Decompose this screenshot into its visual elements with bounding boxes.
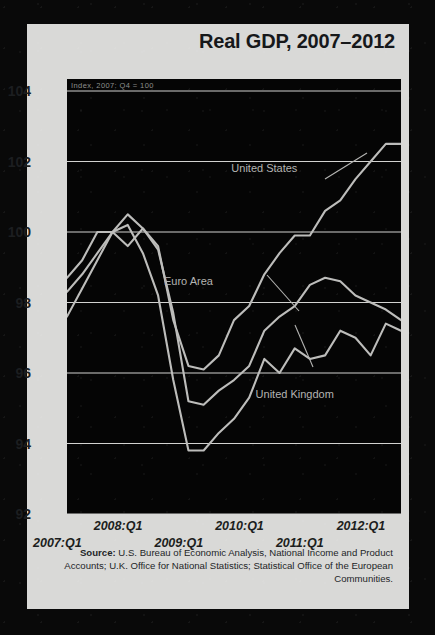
source-label: Source: xyxy=(80,547,116,558)
x-axis-tick-2012-Q1: 2012:Q1 xyxy=(337,519,386,533)
annotation-label: Euro Area xyxy=(164,275,214,287)
x-axis-tick-2010-Q1: 2010:Q1 xyxy=(215,519,264,533)
source-note: Source: U.S. Bureau of Economic Analysis… xyxy=(49,547,393,586)
y-axis-tick-102: 102 xyxy=(0,154,31,170)
chart-card: Real GDP, 2007–2012 Index, 2007: Q4 = 10… xyxy=(27,24,409,609)
photo-background: Real GDP, 2007–2012 Index, 2007: Q4 = 10… xyxy=(0,0,435,635)
y-axis-tick-100: 100 xyxy=(0,224,31,240)
annotation-label: United Kingdom xyxy=(256,388,334,400)
line-chart-svg: United StatesEuro AreaUnited Kingdom xyxy=(67,79,401,514)
y-axis-tick-96: 96 xyxy=(0,365,31,381)
y-axis-tick-92: 92 xyxy=(0,506,31,522)
x-axis-tick-2008-Q1: 2008:Q1 xyxy=(94,519,143,533)
y-axis-tick-94: 94 xyxy=(0,436,31,452)
annotation-leader-line xyxy=(267,275,299,311)
plot-area: Index, 2007: Q4 = 100 United StatesEuro … xyxy=(67,79,401,514)
series-line-united-kingdom xyxy=(67,225,401,451)
y-axis-tick-98: 98 xyxy=(0,295,31,311)
series-line-euro-area xyxy=(67,214,401,404)
annotation-leader-line xyxy=(325,153,367,179)
annotation-leader-line xyxy=(295,325,313,367)
y-axis-tick-104: 104 xyxy=(0,83,31,99)
annotation-label: United States xyxy=(231,162,298,174)
chart-title: Real GDP, 2007–2012 xyxy=(27,30,409,53)
